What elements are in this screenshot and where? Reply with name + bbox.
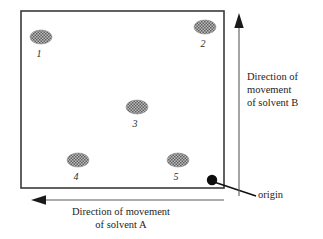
origin-dot[interactable] [207,175,217,185]
chromatogram-canvas [0,0,323,239]
spot-3[interactable] [126,100,148,114]
solvent-a-caption: Direction of movement of solvent A [0,205,242,231]
origin-leader-line [214,182,256,196]
tlc-plate-figure: 1 2 3 4 5 Direction of movement of solve… [0,0,323,239]
spot-5-label: 5 [174,172,179,182]
solvent-b-arrowhead-icon [234,13,243,28]
spot-1[interactable] [30,30,52,44]
spot-4-label: 4 [74,172,79,182]
spot-5[interactable] [167,153,189,167]
spot-1-label: 1 [37,49,42,59]
solvent-a-arrowhead-icon [31,195,46,204]
spot-3-label: 3 [133,119,138,129]
solvent-b-caption: Direction of movement of solvent B [247,70,298,109]
origin-label: origin [258,189,283,200]
spot-2-label: 2 [201,39,206,49]
spot-2[interactable] [194,20,216,34]
spot-4[interactable] [67,153,89,167]
